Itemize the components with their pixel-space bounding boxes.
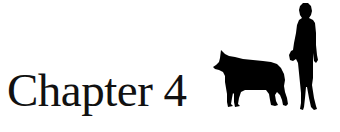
wolf-silhouette-icon (213, 48, 291, 110)
chapter-header: Chapter 4 (0, 0, 340, 132)
chapter-title: Chapter 4 (7, 62, 187, 118)
woman-silhouette-icon (286, 3, 324, 111)
